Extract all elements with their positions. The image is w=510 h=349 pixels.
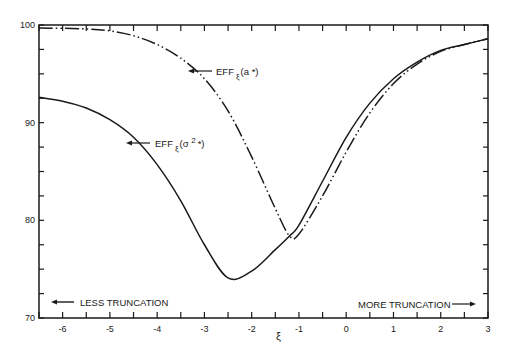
x-axis-ticks: -6-5-4-3-2-10123 (39, 25, 491, 334)
x-tick-label: 3 (485, 324, 490, 334)
x-tick-label: 1 (391, 324, 396, 334)
y-tick-label: 70 (25, 313, 35, 323)
annotation-eff-a: EFFξ(a *) (188, 66, 259, 81)
x-tick-label: -4 (153, 324, 161, 334)
eff-sigma-main: EFF (155, 138, 173, 149)
less-truncation-label: LESS TRUNCATION (80, 297, 168, 308)
plot-border (39, 25, 488, 318)
eff-sigma-sup: 2 (191, 136, 196, 145)
eff-a-sub: ξ (236, 72, 240, 81)
curves (39, 28, 488, 279)
x-tick-label: -3 (200, 324, 208, 334)
svg-text:EFFξ(a *): EFFξ(a *) (216, 66, 259, 81)
eff-sigma-sub: ξ (175, 144, 179, 153)
x-tick-label: 0 (344, 324, 349, 334)
eff-a-tail: (a *) (241, 66, 259, 77)
arrow-left-icon (126, 141, 132, 146)
curve-eff-sigma (39, 39, 488, 280)
svg-text:EFFξ(σ 2*): EFFξ(σ 2*) (155, 136, 205, 153)
eff-a-main: EFF (216, 66, 234, 77)
eff-sigma-tail: (σ (180, 138, 192, 149)
x-tick-label: -2 (248, 324, 256, 334)
y-tick-label: 100 (20, 20, 35, 30)
plot-frame (39, 25, 488, 318)
y-tick-label: 80 (25, 215, 35, 225)
arrow-right-icon (470, 302, 476, 307)
x-tick-label: 2 (438, 324, 443, 334)
y-tick-label: 90 (25, 118, 35, 128)
efficiency-chart: -6-5-4-3-2-10123 708090100 EFFξ(a *) EFF… (0, 0, 510, 349)
x-tick-label: -5 (106, 324, 114, 334)
arrow-left-icon (51, 300, 57, 305)
more-truncation-label: MORE TRUNCATION (358, 299, 451, 310)
x-tick-label: -1 (295, 324, 303, 334)
arrow-left-icon (188, 69, 194, 74)
annotation-eff-sigma: EFFξ(σ 2*) (126, 136, 205, 153)
x-tick-label: -6 (59, 324, 67, 334)
less-truncation-annotation: LESS TRUNCATION (51, 297, 168, 308)
more-truncation-annotation: MORE TRUNCATION (358, 299, 476, 310)
eff-sigma-end: *) (198, 138, 205, 149)
x-axis-label-xi: ξ (276, 330, 281, 342)
